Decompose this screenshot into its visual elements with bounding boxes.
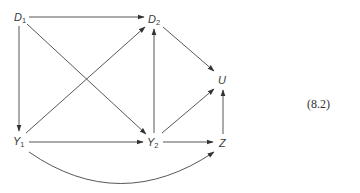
- equation-number: (8.2): [307, 97, 330, 111]
- nodes: D1 D2 U Y1 Y2 Z: [13, 11, 227, 150]
- node-y2: Y2: [147, 136, 159, 150]
- edge-d2-to-u: [163, 27, 214, 71]
- node-d2: D2: [148, 13, 160, 27]
- node-u: U: [218, 74, 226, 86]
- node-z: Z: [218, 137, 227, 149]
- edge-y2-to-u: [162, 89, 214, 133]
- edges: [19, 17, 223, 184]
- node-y1: Y1: [13, 135, 25, 149]
- causal-diagram: D1 D2 U Y1 Y2 Z (8.2): [0, 0, 360, 193]
- node-d1: D1: [14, 11, 26, 25]
- edge-y1-to-z-curved: [29, 152, 214, 184]
